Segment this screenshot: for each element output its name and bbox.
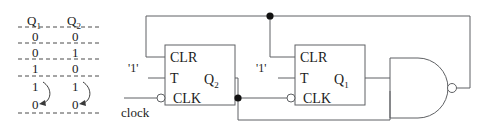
flipflop-1-output-label: Q2	[204, 72, 219, 90]
flipflop-2-clk-inversion-bubble	[287, 94, 295, 102]
logic-one-ff1: '1'	[128, 61, 165, 78]
junction-feedback-tap	[266, 12, 273, 19]
feedback-branch-ff2-clr	[270, 16, 295, 57]
logic-one-ff2: '1'	[256, 61, 295, 78]
nand-gate	[390, 58, 470, 118]
wrap-arrow-q1-head	[39, 100, 46, 106]
flipflop-2-clr-label: CLR	[300, 50, 328, 65]
table-wrap-arrows	[39, 82, 90, 106]
wrap-arrow-q1	[43, 82, 50, 103]
flipflop-2-output-label: Q1	[334, 72, 349, 90]
junction-q2-net	[234, 94, 241, 101]
logic-one-ff1-label: '1'	[128, 61, 138, 75]
flipflop-1-clk-inversion-bubble	[157, 94, 165, 102]
flipflop-1: CLR T CLK Q2	[157, 45, 235, 106]
wrap-arrow-q2-head	[79, 100, 86, 106]
figure-canvas: Q1 Q2 0 0 0 1 1 0 1 1 0 0	[0, 0, 487, 132]
clock-input: clock	[121, 98, 157, 120]
clock-label: clock	[121, 105, 150, 120]
flipflop-1-clk-label: CLK	[173, 91, 201, 106]
flipflop-1-t-label: T	[170, 71, 179, 86]
flipflop-2: CLR T CLK Q1	[287, 45, 365, 106]
flipflop-1-clr-label: CLR	[170, 50, 198, 65]
flipflop-2-t-label: T	[300, 71, 309, 86]
logic-one-ff2-label: '1'	[256, 61, 266, 75]
nand-gate-body	[390, 58, 448, 118]
feedback-branch-ff1-clr	[146, 16, 165, 57]
flipflop-2-clk-label: CLK	[303, 91, 331, 106]
nand-gate-output-bubble	[448, 84, 457, 93]
wrap-arrow-q2	[83, 82, 90, 103]
